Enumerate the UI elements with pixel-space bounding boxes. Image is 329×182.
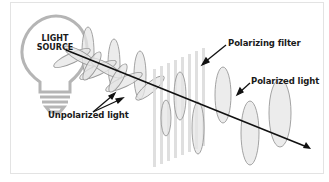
unpolarized-light-label: Unpolarized light [48, 110, 129, 120]
light-source-label: LIGHT SOURCE [29, 34, 81, 52]
polarization-diagram [0, 0, 329, 182]
polarizing-filter-label: Polarizing filter [228, 38, 301, 48]
polarized-light-label: Polarized light [251, 76, 319, 86]
